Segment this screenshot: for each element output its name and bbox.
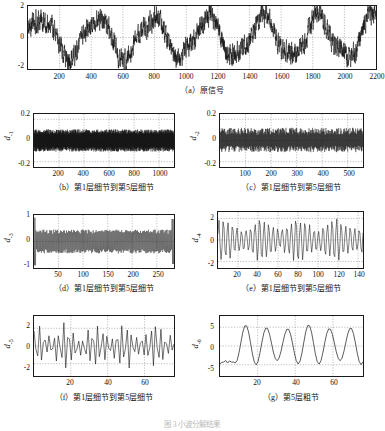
- panel-a-caption: （a）原信号: [92, 86, 312, 96]
- panel-d-xtick-50: 50: [45, 271, 71, 279]
- panel-b-svg: [34, 114, 174, 167]
- panel-c-ytick-p: 0.2: [194, 110, 216, 118]
- panel-d-xtick-100: 100: [70, 271, 96, 279]
- panel-a-xtick-400: 400: [77, 73, 105, 81]
- panel-a-xtick-1200: 1200: [204, 73, 232, 81]
- panel-d-xtick-200: 200: [120, 271, 146, 279]
- panel-a-xtick-600: 600: [109, 73, 137, 81]
- panel-d-svg: [34, 215, 174, 268]
- panel-a-xtick-1800: 1800: [299, 73, 327, 81]
- panel-b-series: [34, 129, 174, 151]
- panel-g-xtick-60: 60: [321, 379, 347, 387]
- panel-c-xtick-500: 500: [336, 170, 362, 178]
- panel-a-ytick-2: 2: [8, 2, 24, 10]
- panel-f-plot: [33, 315, 175, 377]
- panel-c-xtick-200: 200: [258, 170, 284, 178]
- panel-g-xtick-20: 20: [244, 379, 270, 387]
- panel-c-xtick-300: 300: [284, 170, 310, 178]
- panel-e-ytick-0: 0: [196, 237, 214, 245]
- panel-g-plot: [219, 315, 364, 377]
- panel-e-caption: （e）第1层细节到第5层细节: [198, 284, 384, 294]
- panel-f-ytick-m: -2: [8, 364, 30, 372]
- panel-d-ytick-0: 0: [12, 236, 30, 244]
- panel-c-xtick-400: 400: [310, 170, 336, 178]
- panel-c-ytick-m: -0.2: [190, 160, 216, 168]
- panel-d-xtick-150: 150: [95, 271, 121, 279]
- panel-d-ylabel-text: d: [2, 238, 12, 242]
- panel-a-xtick-1000: 1000: [172, 73, 200, 81]
- panel-d-caption: （d）第1层细节到第5层细节: [11, 284, 197, 294]
- panel-b-plot: [33, 113, 175, 168]
- panel-a-xtick-2200: 2200: [363, 73, 385, 81]
- panel-b-ytick-m: -0.2: [4, 160, 30, 168]
- panel-a-xtick-1400: 1400: [236, 73, 264, 81]
- panel-g-series: [220, 326, 363, 365]
- panel-g-ytick-m: -5: [192, 365, 214, 373]
- panel-f-ytick-p: 2: [12, 322, 30, 330]
- panel-c-svg: [220, 114, 363, 167]
- panel-e-ytick-p: 2: [196, 214, 214, 222]
- panel-b-ytick-p: 0.2: [8, 110, 30, 118]
- panel-a-svg: [28, 6, 376, 69]
- panel-a-xtick-1600: 1600: [268, 73, 296, 81]
- panel-b-caption: （b）第1层细节到第5层细节: [11, 183, 197, 193]
- panel-a-ytick-0: 0: [8, 33, 24, 41]
- panel-a-ytick-m2: -2: [6, 62, 24, 70]
- panel-e-xtick-140: 140: [346, 271, 372, 279]
- panel-f-xtick-60: 60: [132, 379, 158, 387]
- panel-e-gridlines: [218, 212, 363, 268]
- panel-e-plot: [217, 211, 364, 269]
- panel-d-plot: [33, 214, 175, 269]
- panel-c-ytick-0: 0: [194, 135, 216, 143]
- panel-b-xtick-600: 600: [96, 170, 122, 178]
- panel-b-xtick-200: 200: [45, 170, 71, 178]
- panel-b-xtick-400: 400: [70, 170, 96, 178]
- panel-e-svg: [218, 212, 363, 268]
- panel-f-caption: （f）第1层细节到第5层细节: [11, 393, 197, 403]
- panel-c-plot: [219, 113, 364, 168]
- panel-a-xtick-800: 800: [140, 73, 168, 81]
- panel-f-ytick-0: 0: [12, 343, 30, 351]
- panel-g-svg: [220, 316, 363, 376]
- panel-c-series: [220, 128, 363, 152]
- panel-g-ytick-0: 0: [196, 344, 214, 352]
- panel-g-xtick-40: 40: [283, 379, 309, 387]
- panel-g-gridlines: [220, 316, 363, 376]
- panel-a-xtick-2000: 2000: [331, 73, 359, 81]
- panel-f-series: [34, 323, 174, 368]
- panel-f-xtick-20: 20: [57, 379, 83, 387]
- panel-a-plot: [27, 5, 377, 70]
- panel-f-xtick-40: 40: [95, 379, 121, 387]
- panel-d-ytick-p: 1: [12, 211, 30, 219]
- panel-a-xtick-200: 200: [45, 73, 73, 81]
- panel-d-ytick-m: -1: [8, 261, 30, 269]
- panel-b-xtick-1000: 1000: [147, 170, 173, 178]
- panel-b-xtick-800: 800: [121, 170, 147, 178]
- panel-c-caption: （c）第1层细节到第5层细节: [198, 183, 384, 193]
- panel-c-xtick-100: 100: [232, 170, 258, 178]
- panel-g-ytick-p: 5: [196, 323, 214, 331]
- panel-f-svg: [34, 316, 174, 376]
- figure-bottom-caption: 图 3 小波分解结果: [92, 420, 292, 429]
- panel-d-xtick-250: 250: [145, 271, 171, 279]
- wavelet-decomposition-figure: 2 0 -2 200: [0, 0, 385, 431]
- panel-f-ylabel-text: d: [2, 344, 12, 348]
- panel-e-ytick-m: -2: [192, 260, 214, 268]
- panel-b-ytick-0: 0: [8, 135, 30, 143]
- panel-e-series: [218, 219, 363, 261]
- panel-g-caption: （g）第5层粗节: [198, 393, 384, 403]
